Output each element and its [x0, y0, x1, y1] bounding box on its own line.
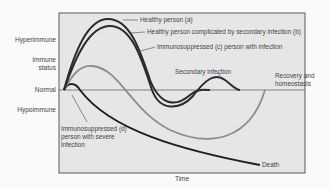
plot-frame: [59, 13, 305, 173]
immune-status-diagram: Hyperimmune Immune status Normal Hypoimm…: [0, 0, 330, 188]
label-immunosuppressed-c: Immunosuppressed (c) person with infecti…: [157, 43, 282, 51]
y-label-hypoimmune: Hypoimmune: [4, 106, 56, 114]
y-label-hyperimmune: Hyperimmune: [4, 36, 56, 44]
label-immunosuppressed-d-1: Immunosuppressed (d): [61, 125, 127, 133]
label-recovery-2: homeostasis: [275, 80, 311, 88]
y-label-status: status: [4, 64, 56, 72]
label-death: Death: [262, 161, 279, 169]
label-recovery-1: Recovery and: [275, 72, 314, 80]
label-immunosuppressed-d-3: infection: [61, 141, 85, 149]
label-immunosuppressed-d-2: person with severe: [61, 133, 115, 141]
label-secondary-infection: Secondary infection: [175, 68, 231, 76]
label-healthy-b: Healthy person complicated by secondary …: [147, 28, 301, 36]
x-label-time: Time: [175, 175, 189, 183]
y-label-normal: Normal: [4, 86, 56, 94]
label-healthy-a: Healthy person (a): [140, 16, 193, 24]
y-label-immune: Immune: [4, 56, 56, 64]
